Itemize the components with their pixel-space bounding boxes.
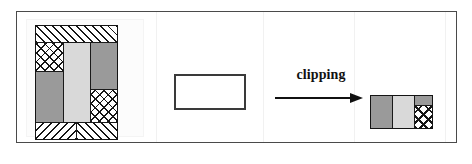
source-figure-outline	[35, 25, 118, 140]
panel-divider-1	[156, 12, 157, 142]
panel-divider-2	[263, 12, 264, 142]
clipping-label: clipping	[272, 67, 370, 83]
source-figure	[35, 25, 118, 140]
result-figure-outline	[370, 95, 433, 129]
clipping-arrow-group: clipping	[272, 67, 370, 111]
figure-frame: clipping	[16, 11, 457, 143]
panel-divider-4	[445, 12, 446, 142]
clip-rectangle	[174, 74, 246, 110]
arrow-shaft	[275, 97, 353, 99]
result-figure	[370, 95, 433, 129]
arrow-head-icon	[350, 93, 363, 103]
